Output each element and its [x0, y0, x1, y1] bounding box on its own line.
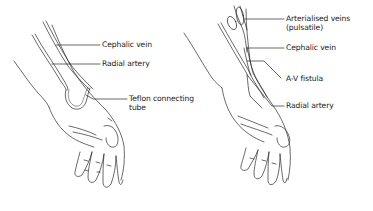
label-radial-artery-right: Radial artery	[286, 101, 334, 110]
label-teflon-tube: Teflon connecting	[129, 94, 194, 103]
label-av-fistula: A-V fistula	[286, 74, 323, 83]
label-cephalic-vein-right: Cephalic vein	[286, 43, 336, 52]
label-cephalic-vein-left: Cephalic vein	[102, 40, 152, 49]
av-access-diagram: Cephalic vein Radial artery Teflon conne…	[0, 0, 373, 211]
label-teflon-tube-line2: tube	[129, 103, 146, 112]
label-radial-artery-left: Radial artery	[102, 59, 150, 68]
label-arterialised-veins: Arterialised veins	[286, 14, 350, 23]
right-hand-illustration	[184, 6, 290, 185]
label-arterialised-veins-line2: (pulsatile)	[286, 23, 323, 32]
